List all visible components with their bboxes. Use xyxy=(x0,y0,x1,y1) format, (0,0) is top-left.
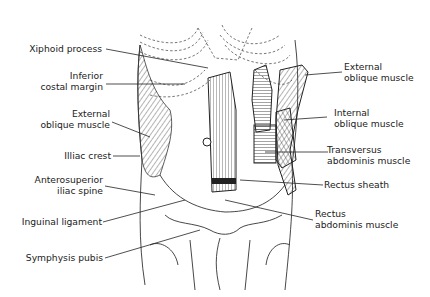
label-rectus-abdominis: Rectus abdominis muscle xyxy=(315,208,398,230)
label-text: Symphysis pubis xyxy=(26,252,103,263)
right-external-oblique-flap xyxy=(276,65,308,195)
label-text: Internal xyxy=(334,107,404,118)
label-text: costal margin xyxy=(40,81,103,92)
label-external-oblique-left: External oblique muscle xyxy=(40,108,110,130)
pelvis xyxy=(150,175,290,290)
label-xiphoid-process: Xiphoid process xyxy=(29,43,102,54)
label-text: Transversus xyxy=(327,144,410,155)
label-text: oblique muscle xyxy=(334,118,404,129)
label-text: External xyxy=(40,108,110,119)
label-text: External xyxy=(344,61,414,72)
label-inferior-costal-margin: Inferior costal margin xyxy=(40,70,103,92)
label-text: iliac spine xyxy=(35,185,103,196)
anatomy-diagram: Xiphoid process Inferior costal margin E… xyxy=(0,0,430,297)
tendinous-band xyxy=(212,178,236,184)
label-text: oblique muscle xyxy=(344,72,414,83)
label-text: Xiphoid process xyxy=(29,43,102,54)
label-internal-oblique: Internal oblique muscle xyxy=(334,107,404,129)
rectus-abdominis-left xyxy=(208,72,236,192)
label-text: Illiac crest xyxy=(64,150,111,161)
label-text: oblique muscle xyxy=(40,119,110,130)
umbilicus xyxy=(203,138,211,146)
transversus-abdominis xyxy=(254,125,276,163)
label-iliac-crest: Illiac crest xyxy=(64,150,111,161)
rectus-abdominis-right xyxy=(252,65,272,132)
label-text: Rectus sheath xyxy=(324,179,389,190)
label-symphysis-pubis: Symphysis pubis xyxy=(26,252,103,263)
left-external-oblique xyxy=(138,45,172,177)
label-inguinal-ligament: Inguinal ligament xyxy=(22,216,102,227)
label-anterosuperior-iliac-spine: Anterosuperior iliac spine xyxy=(35,174,103,196)
label-text: Inferior xyxy=(40,70,103,81)
label-text: Inguinal ligament xyxy=(22,216,102,227)
label-text: abdominis muscle xyxy=(327,155,410,166)
label-rectus-sheath: Rectus sheath xyxy=(324,179,389,190)
label-external-oblique-right: External oblique muscle xyxy=(344,61,414,83)
label-text: Anterosuperior xyxy=(35,174,103,185)
label-transversus-abdominis: Transversus abdominis muscle xyxy=(327,144,410,166)
label-text: Rectus xyxy=(315,208,398,219)
label-text: abdominis muscle xyxy=(315,219,398,230)
